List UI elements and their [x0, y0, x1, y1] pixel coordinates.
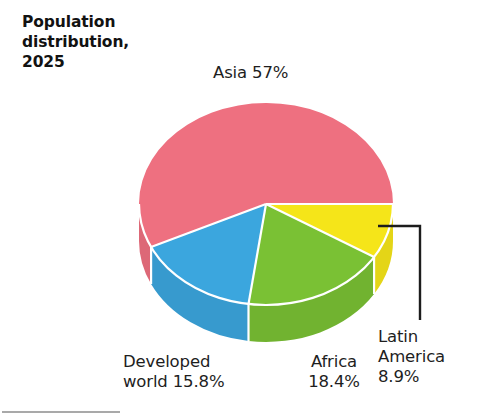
slice-label-africa: Africa 18.4% [297, 352, 371, 392]
slice-label-asia: Asia 57% [213, 63, 288, 83]
pie-chart-figure: Population distribution, 2025 Asia 57% D… [0, 0, 477, 416]
slice-label-developed-world: Developed world 15.8% [123, 352, 224, 392]
slice-label-latin-america: Latin America 8.9% [378, 327, 445, 386]
bottom-rule [2, 411, 120, 413]
